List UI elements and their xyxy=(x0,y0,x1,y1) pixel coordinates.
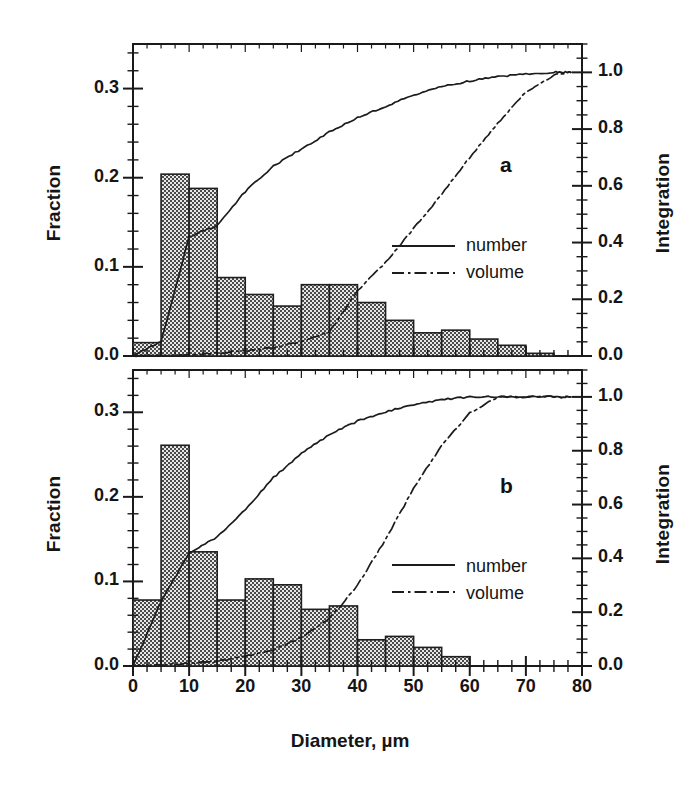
histogram-bar xyxy=(301,285,329,356)
y-tick-label-right-a: 0.8 xyxy=(598,117,623,138)
y-tick-label-left-a: 0.3 xyxy=(59,77,119,98)
y-tick-label-left-a: 0.1 xyxy=(59,255,119,276)
histogram-bar xyxy=(217,278,245,356)
y-tick-label-left-b: 0.2 xyxy=(59,485,119,506)
histogram-bar xyxy=(273,306,301,356)
x-tick-label: 30 xyxy=(271,676,331,697)
y-tick-label-right-b: 0.8 xyxy=(598,439,623,460)
panel-label-b: b xyxy=(500,474,513,498)
y-tick-label-right-a: 1.0 xyxy=(598,60,623,81)
y-axis-title-right-panel-b: Integration xyxy=(652,454,674,574)
histogram-bar xyxy=(329,606,357,666)
legend-label-number-panel-a: number xyxy=(466,235,527,256)
histogram-bar xyxy=(301,609,329,666)
figure-root: Fraction Integration Fraction Integratio… xyxy=(0,0,700,791)
panel-label-a: a xyxy=(500,153,512,177)
x-tick-label: 70 xyxy=(496,676,556,697)
histogram-bar xyxy=(161,445,189,666)
y-tick-label-right-a: 0.6 xyxy=(598,174,623,195)
x-tick-label: 60 xyxy=(440,676,500,697)
y-tick-label-right-b: 0.2 xyxy=(598,600,623,621)
x-tick-label: 40 xyxy=(328,676,388,697)
x-tick-label: 50 xyxy=(384,676,444,697)
y-axis-title-left-panel-a: Fraction xyxy=(43,143,65,263)
histogram-bar xyxy=(358,303,386,356)
legend-label-number-panel-b: number xyxy=(466,556,527,577)
histogram-bar xyxy=(273,585,301,666)
x-axis-title: Diameter, µm xyxy=(0,730,700,752)
histogram-bar xyxy=(189,552,217,666)
panel-group-a xyxy=(123,44,592,356)
y-tick-label-left-a: 0.0 xyxy=(59,344,119,365)
histogram-bar xyxy=(217,600,245,666)
histogram-bar xyxy=(245,294,273,356)
y-tick-label-right-b: 0.0 xyxy=(598,654,623,675)
histogram-bar xyxy=(189,188,217,356)
y-tick-label-right-b: 0.6 xyxy=(598,493,623,514)
y-tick-label-left-a: 0.2 xyxy=(59,166,119,187)
histogram-bar xyxy=(329,285,357,356)
legend-label-volume-panel-a: volume xyxy=(466,262,524,283)
y-tick-label-right-a: 0.0 xyxy=(598,344,623,365)
x-tick-label: 10 xyxy=(159,676,219,697)
y-axis-title-right-panel-a: Integration xyxy=(652,143,674,263)
x-tick-label: 0 xyxy=(103,676,163,697)
panel-group-b xyxy=(123,370,592,676)
y-axis-title-left-panel-b: Fraction xyxy=(43,454,65,574)
y-tick-label-left-b: 0.0 xyxy=(59,654,119,675)
y-tick-label-right-a: 0.4 xyxy=(598,231,623,252)
x-tick-label: 20 xyxy=(215,676,275,697)
x-tick-label: 80 xyxy=(552,676,612,697)
y-tick-label-left-b: 0.1 xyxy=(59,569,119,590)
legend-label-volume-panel-b: volume xyxy=(466,583,524,604)
y-tick-label-right-b: 0.4 xyxy=(598,546,623,567)
y-tick-label-left-b: 0.3 xyxy=(59,400,119,421)
y-tick-label-right-a: 0.2 xyxy=(598,287,623,308)
y-tick-label-right-b: 1.0 xyxy=(598,385,623,406)
